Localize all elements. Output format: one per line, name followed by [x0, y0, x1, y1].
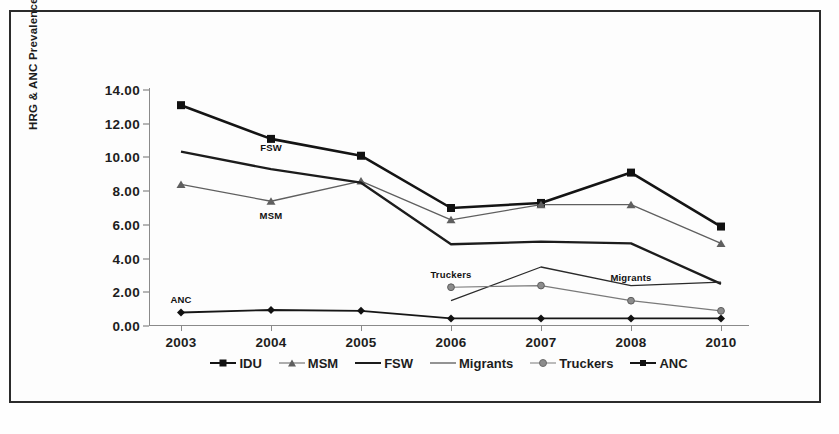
annotation-truckers: Truckers	[430, 268, 471, 279]
data-point-anc	[447, 314, 455, 322]
data-point-idu	[177, 101, 185, 109]
x-tick-label: 2008	[615, 335, 646, 350]
data-point-anc	[267, 306, 275, 314]
x-tick-mark	[451, 326, 452, 331]
legend-label: FSW	[384, 356, 413, 371]
x-tick-mark	[181, 326, 182, 331]
y-tick-label: 8.00	[113, 184, 140, 199]
data-point-truckers	[538, 282, 545, 289]
plot-area: 0.002.004.006.008.0010.0012.0014.00 2003…	[149, 90, 749, 326]
data-point-anc	[627, 314, 635, 322]
legend-item-msm[interactable]: MSM	[279, 356, 338, 371]
legend-item-migrants[interactable]: Migrants	[430, 356, 513, 371]
chart-screenshot: HRG & ANC Prevalence (%) 0.002.004.006.0…	[0, 0, 839, 434]
data-point-msm	[717, 239, 726, 247]
annotation-migrants: Migrants	[610, 272, 651, 283]
y-tick-label: 14.00	[105, 83, 140, 98]
series-line-migrants	[451, 267, 721, 301]
data-point-truckers	[718, 307, 725, 314]
data-point-idu	[717, 223, 725, 231]
legend-label: Truckers	[559, 356, 613, 371]
data-point-anc	[537, 314, 545, 322]
data-point-idu	[627, 169, 635, 177]
y-tick-label: 12.00	[105, 116, 140, 131]
legend-symbol-msm-icon	[279, 357, 305, 369]
y-tick-label: 6.00	[113, 217, 140, 232]
data-point-anc	[177, 309, 185, 317]
y-tick-label: 4.00	[113, 251, 140, 266]
chart-frame: HRG & ANC Prevalence (%) 0.002.004.006.0…	[9, 10, 821, 403]
legend-item-fsw[interactable]: FSW	[355, 356, 413, 371]
x-tick-mark	[541, 326, 542, 331]
x-tick-mark	[361, 326, 362, 331]
data-point-idu	[447, 204, 455, 212]
chart-legend: IDUMSMFSWMigrantsTruckersANC	[149, 352, 749, 374]
legend-symbol-idu-icon	[210, 357, 236, 369]
legend-symbol-anc-icon	[630, 357, 656, 369]
annotation-msm: MSM	[260, 209, 283, 220]
x-tick-label: 2007	[525, 335, 556, 350]
legend-item-truckers[interactable]: Truckers	[530, 356, 613, 371]
legend-label: ANC	[659, 356, 687, 371]
legend-label: Migrants	[459, 356, 513, 371]
x-tick-mark	[271, 326, 272, 331]
legend-item-idu[interactable]: IDU	[210, 356, 261, 371]
x-tick-mark	[721, 326, 722, 331]
y-tick-label: 0.00	[113, 319, 140, 334]
data-point-anc	[357, 307, 365, 315]
data-point-truckers	[448, 284, 455, 291]
legend-label: MSM	[308, 356, 338, 371]
data-point-truckers	[628, 297, 635, 304]
legend-symbol-fsw-icon	[355, 357, 381, 369]
x-tick-label: 2005	[345, 335, 376, 350]
x-tick-label: 2006	[435, 335, 466, 350]
y-tick-label: 2.00	[113, 285, 140, 300]
data-point-anc	[717, 314, 725, 322]
legend-label: IDU	[239, 356, 261, 371]
data-point-idu	[357, 152, 365, 160]
series-line-truckers	[451, 286, 721, 311]
y-tick-label: 10.00	[105, 150, 140, 165]
legend-symbol-truckers-icon	[530, 357, 556, 369]
legend-item-anc[interactable]: ANC	[630, 356, 687, 371]
x-tick-label: 2003	[165, 335, 196, 350]
legend-symbol-migrants-icon	[430, 357, 456, 369]
y-axis-label: HRG & ANC Prevalence (%)	[27, 0, 47, 130]
x-tick-label: 2004	[255, 335, 286, 350]
x-tick-mark	[631, 326, 632, 331]
annotation-anc: ANC	[170, 294, 191, 305]
data-point-msm	[177, 180, 186, 188]
x-tick-label: 2010	[705, 335, 736, 350]
series-lines	[149, 90, 749, 326]
annotation-fsw: FSW	[260, 142, 282, 153]
